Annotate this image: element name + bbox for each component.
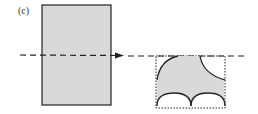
bottom-left-arch xyxy=(157,93,191,106)
bottom-right-arch xyxy=(191,93,225,106)
arrow-head xyxy=(115,53,124,59)
diagram xyxy=(0,0,258,114)
result-fill xyxy=(157,56,224,106)
